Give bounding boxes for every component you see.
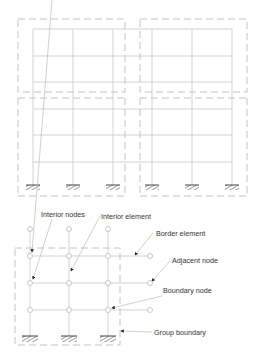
- leader-interior-nodes-2: [33, 219, 52, 279]
- leader-adjacent-node: [152, 261, 170, 281]
- group-boundary-top-right: [140, 19, 247, 92]
- bottom-group-boundary: [15, 248, 120, 345]
- label-border-element: Border element: [156, 229, 205, 238]
- group-boundary-bottom-right: [140, 98, 247, 196]
- bottom-nodes: [28, 227, 153, 313]
- top-group-boundaries: [18, 19, 247, 196]
- label-interior-nodes: Interior nodes: [41, 210, 85, 219]
- bottom-supports: [22, 336, 116, 342]
- top-frame-structure: [33, 29, 232, 185]
- diagram-canvas: Interior nodes Interior element Border e…: [0, 0, 260, 359]
- leader-group-boundary: [121, 331, 152, 332]
- label-boundary-node: Boundary node: [163, 286, 212, 295]
- leader-boundary-node: [112, 296, 162, 308]
- top-supports: [26, 185, 239, 190]
- bottom-frame-elements: [30, 229, 150, 336]
- leader-interior-element: [71, 216, 100, 271]
- label-interior-element: Interior element: [101, 212, 151, 221]
- label-adjacent-node: Adjacent node: [172, 256, 218, 265]
- leader-border-element: [135, 233, 153, 255]
- label-group-boundary: Group boundary: [154, 328, 206, 337]
- group-boundary-bottom-left: [18, 98, 125, 196]
- group-boundary-top-left: [18, 19, 125, 92]
